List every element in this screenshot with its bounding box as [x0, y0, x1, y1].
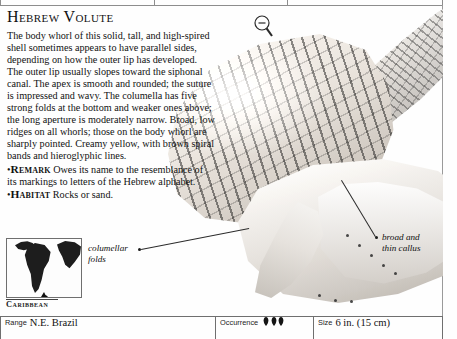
distribution-map — [6, 238, 82, 298]
page-title: Hebrew Volute — [7, 8, 114, 26]
occurrence-rating — [263, 317, 284, 326]
shell-icon — [278, 317, 284, 326]
shell-speck — [382, 264, 385, 267]
habitat-text: Rocks or sand. — [53, 189, 113, 200]
shell-speck — [334, 299, 337, 302]
callout-broad-thin-callus: broad and thin callus — [382, 232, 421, 253]
callout-line-1: broad and — [382, 232, 421, 243]
description-paragraph: The body whorl of this solid, tall, and … — [7, 30, 215, 163]
map-label: Caribbean — [6, 300, 48, 309]
remark-line: •Remark Owes its name to the resemblance… — [7, 163, 215, 188]
footer-occurrence-cell: Occurrence — [220, 317, 284, 339]
range-label: Range — [5, 318, 27, 327]
footer-divider-left — [0, 317, 1, 339]
size-value: 6 in. (15 cm) — [335, 317, 390, 328]
callout-line-1: columellar — [88, 243, 128, 254]
shell-speck — [358, 244, 361, 247]
range-value: N.E. Brazil — [30, 317, 78, 328]
occurrence-label: Occurrence — [220, 318, 258, 327]
footer-divider-2 — [313, 317, 314, 339]
footer-divider-1 — [215, 317, 216, 339]
shell-icon — [263, 317, 269, 326]
shell-speck — [370, 254, 373, 257]
habitat-line: •Habitat Rocks or sand. — [7, 188, 215, 201]
footer-bar: Range N.E. Brazil Occurrence Size 6 in. … — [0, 316, 443, 339]
footer-range-cell: Range N.E. Brazil — [5, 317, 78, 339]
top-rule-tick-left — [0, 0, 1, 6]
remark-label: Remark — [11, 163, 51, 175]
shell-icon — [271, 317, 277, 326]
footer-divider-right — [442, 317, 443, 339]
callout-line-2: thin callus — [382, 243, 421, 254]
range-marker-icon — [40, 285, 49, 293]
magnifier-minus-icon[interactable] — [252, 14, 278, 40]
callout-line-2: folds — [88, 254, 128, 265]
shell-speck — [350, 300, 353, 303]
footer-size-cell: Size 6 in. (15 cm) — [318, 317, 390, 339]
size-label: Size — [318, 318, 332, 327]
shell-speck — [346, 234, 349, 237]
habitat-label: Habitat — [11, 188, 51, 200]
shell-speck — [318, 294, 321, 297]
africa-landmass-icon — [57, 241, 81, 275]
callout-columellar-folds: columellar folds — [88, 243, 128, 264]
shell-speck — [394, 272, 397, 275]
species-description: The body whorl of this solid, tall, and … — [7, 30, 215, 201]
